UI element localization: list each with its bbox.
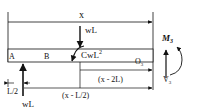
xl2-dimension-label: (x - L/2) bbox=[62, 91, 89, 100]
reaction-label: wL bbox=[22, 99, 34, 109]
point-a-label: A bbox=[9, 52, 15, 61]
section-moment-arrow bbox=[170, 47, 182, 75]
l2-dimension-label: L/2 bbox=[7, 87, 18, 96]
x-dimension-label: x bbox=[79, 9, 84, 20]
applied-moment-label: CwL2 bbox=[81, 49, 102, 60]
point-b-label: B bbox=[44, 52, 49, 61]
x2l-dimension-label: (x - 2L) bbox=[98, 75, 123, 84]
load-label: wL bbox=[85, 25, 97, 35]
section-moment-label: M3 bbox=[161, 33, 173, 44]
shear-label: V3 bbox=[163, 75, 172, 85]
beam-diagram: x wL CwL2 A B O3 wL L/2 (x - 2L) (x - L/… bbox=[0, 0, 200, 110]
